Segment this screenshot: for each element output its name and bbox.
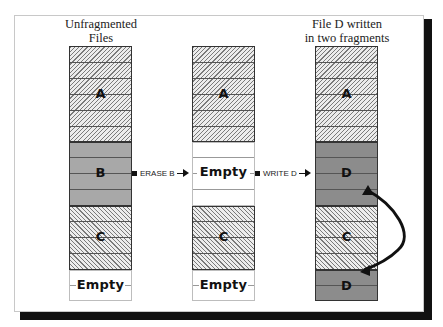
fragment-connector-arrow-icon [0, 0, 443, 327]
